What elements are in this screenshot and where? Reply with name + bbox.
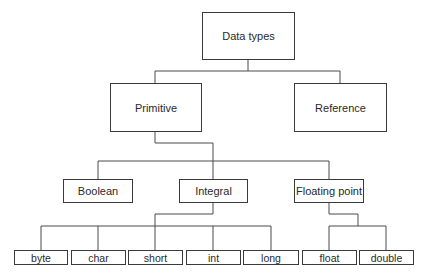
connector-integral-bus	[41, 226, 271, 250]
connector-floating	[329, 203, 358, 226]
node-double: double	[359, 250, 414, 265]
node-reference: Reference	[294, 83, 387, 132]
node-data-types: Data types	[202, 12, 295, 60]
node-char: char	[71, 250, 126, 265]
connector-floating-bus	[329, 226, 386, 250]
node-label: char	[88, 252, 108, 264]
node-label: long	[261, 252, 281, 264]
node-label: Data types	[222, 30, 275, 42]
node-label: int	[208, 252, 219, 264]
node-floating-point: Floating point	[294, 179, 364, 203]
node-byte: byte	[14, 250, 68, 265]
node-boolean: Boolean	[63, 179, 133, 203]
node-label: double	[371, 252, 403, 264]
connector-root-bus	[155, 71, 340, 83]
node-label: Primitive	[135, 102, 177, 114]
node-primitive: Primitive	[110, 83, 202, 132]
node-label: float	[320, 252, 340, 264]
node-integral: Integral	[179, 179, 248, 203]
node-int: int	[186, 250, 241, 265]
node-label: Integral	[195, 185, 232, 197]
node-label: Reference	[315, 102, 366, 114]
connector-primitive	[155, 132, 213, 161]
node-long: long	[243, 250, 299, 265]
node-label: Floating point	[296, 185, 362, 197]
node-short: short	[128, 250, 183, 265]
node-float: float	[302, 250, 357, 265]
node-label: short	[144, 252, 167, 264]
node-label: Boolean	[78, 185, 118, 197]
node-label: byte	[31, 252, 51, 264]
